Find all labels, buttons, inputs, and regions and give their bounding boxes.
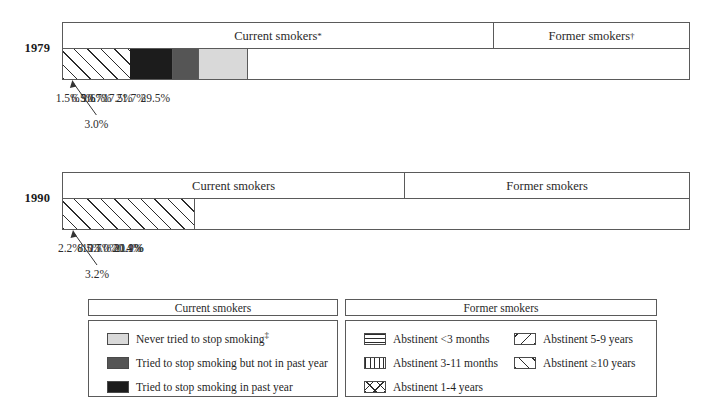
legend-item[interactable]: Tried to stop smoking in past year bbox=[107, 381, 293, 393]
figure-root: 1979 Current smokers* Former smokers† 29… bbox=[0, 0, 723, 419]
legend-item[interactable]: Abstinent 5-9 years bbox=[514, 333, 633, 345]
legend-current-title: Current smokers bbox=[88, 299, 338, 316]
callout-arrow-1990 bbox=[0, 150, 723, 290]
legend-swatch-icon bbox=[107, 357, 129, 369]
legend-item[interactable]: Abstinent <3 months bbox=[364, 333, 490, 345]
legend-item-label: Abstinent ≥10 years bbox=[543, 357, 636, 369]
legend-former-body: Abstinent <3 monthsAbstinent 3-11 months… bbox=[345, 320, 657, 397]
legend-swatch-icon bbox=[364, 357, 386, 369]
legend-item-label: Abstinent <3 months bbox=[393, 333, 490, 345]
legend-item[interactable]: Abstinent 3-11 months bbox=[364, 357, 498, 369]
legend-item[interactable]: Abstinent ≥10 years bbox=[514, 357, 636, 369]
bar-group-1979: 1979 Current smokers* Former smokers† 29… bbox=[0, 0, 723, 140]
legend-former-title: Former smokers bbox=[345, 299, 657, 316]
legend-item-label: Never tried to stop smoking‡ bbox=[136, 333, 269, 345]
legend-swatch-icon bbox=[514, 357, 536, 369]
legend-item-label: Tried to stop smoking but not in past ye… bbox=[136, 357, 328, 369]
legend-item-label: Abstinent 1-4 years bbox=[393, 381, 483, 393]
legend-swatch-icon bbox=[364, 381, 386, 393]
legend-swatch-icon bbox=[364, 333, 386, 345]
bar-group-1990: 1990 Current smokers Former smokers 20.4… bbox=[0, 150, 723, 290]
legend-current-body: Never tried to stop smoking‡Tried to sto… bbox=[88, 320, 338, 397]
legend-swatch-icon bbox=[107, 333, 129, 345]
legend-item-label: Abstinent 5-9 years bbox=[543, 333, 633, 345]
legend-swatch-icon bbox=[514, 333, 536, 345]
legend-swatch-icon bbox=[107, 381, 129, 393]
legend-item-label: Tried to stop smoking in past year bbox=[136, 381, 293, 393]
legend-item-superscript: ‡ bbox=[264, 330, 269, 340]
legend-item[interactable]: Never tried to stop smoking‡ bbox=[107, 333, 269, 345]
legend-item[interactable]: Tried to stop smoking but not in past ye… bbox=[107, 357, 328, 369]
callout-arrow-1979 bbox=[0, 0, 723, 140]
legend-item[interactable]: Abstinent 1-4 years bbox=[364, 381, 483, 393]
legend-item-label: Abstinent 3-11 months bbox=[393, 357, 498, 369]
